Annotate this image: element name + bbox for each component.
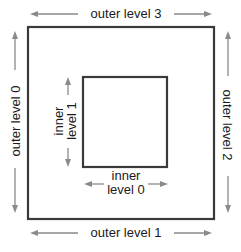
arrowhead-right-icon [160, 181, 168, 187]
arrowhead-left-icon [30, 11, 38, 17]
arrowhead-right-icon [204, 11, 212, 17]
outer-level-2-label: outer level 2 [220, 90, 235, 161]
inner-level-0-indicator: inner level 0 [84, 168, 168, 197]
outer-level-3-label: outer level 3 [91, 6, 162, 21]
outer-level-1-indicator: outer level 1 [30, 225, 212, 240]
arrowhead-up-icon [12, 31, 18, 39]
outer-level-2-indicator: outer level 2 [220, 31, 235, 213]
arrowhead-down-icon [12, 205, 18, 213]
arrowhead-left-icon [84, 181, 92, 187]
outer-level-0-label: outer level 0 [8, 86, 23, 157]
arrowhead-down-icon [65, 159, 71, 167]
tessellation-diagram: outer level 3 outer level 1 outer level … [0, 0, 241, 252]
inner-level-0-label-line2: level 0 [107, 182, 145, 197]
arrowhead-down-icon [225, 205, 231, 213]
arrowhead-up-icon [65, 77, 71, 85]
arrowhead-up-icon [225, 31, 231, 39]
outer-level-3-indicator: outer level 3 [30, 6, 212, 21]
inner-level-1-indicator: inner level 1 [51, 77, 79, 167]
arrowhead-left-icon [30, 230, 38, 236]
inner-level-0-label-line1: inner [112, 168, 142, 183]
arrowhead-right-icon [204, 230, 212, 236]
inner-patch-box [83, 77, 167, 167]
inner-level-1-label-line2: level 1 [64, 102, 79, 140]
outer-level-1-label: outer level 1 [91, 225, 162, 240]
outer-level-0-indicator: outer level 0 [8, 31, 23, 213]
